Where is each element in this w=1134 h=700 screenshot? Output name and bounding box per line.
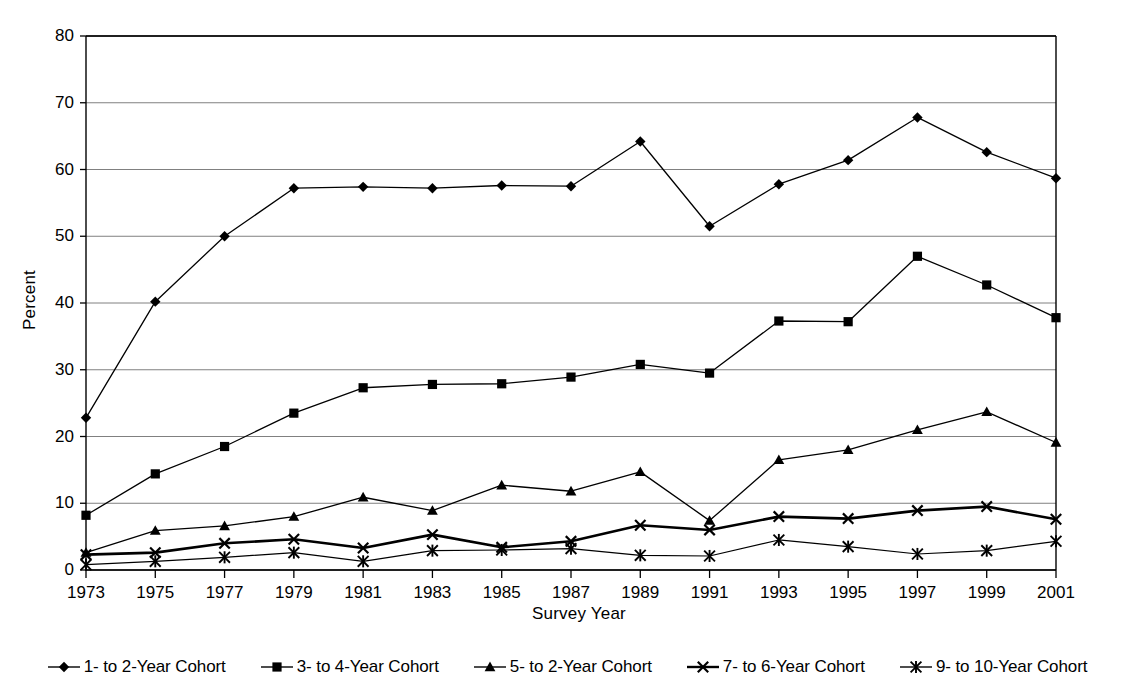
y-tick-label-80: 80 [28,27,74,44]
x-tick-label-1973: 1973 [51,584,121,601]
y-tick-label-0: 0 [28,561,74,578]
data-point-5-to-2-year-cohort-2001 [1051,437,1062,447]
x-tick-label-1999: 1999 [952,584,1022,601]
data-point-3-to-4-year-cohort-1981 [359,383,368,392]
x-tick-label-1995: 1995 [813,584,883,601]
legend-marker-asterisk-icon [899,658,933,676]
legend-marker-glyph [272,662,281,671]
legend-label: 9- to 10-Year Cohort [936,657,1087,677]
data-point-5-to-2-year-cohort-1999 [981,406,992,416]
data-point-3-to-4-year-cohort-1973 [81,511,90,520]
x-tick-label-1979: 1979 [259,584,329,601]
x-tick-label-1985: 1985 [467,584,537,601]
data-point-1-to-2-year-cohort-1995 [843,155,853,165]
data-point-5-to-2-year-cohort-1981 [358,492,369,502]
chart-legend: 1- to 2-Year Cohort3- to 4-Year Cohort5-… [0,650,1134,684]
x-axis-ticks [86,570,1056,578]
data-point-3-to-4-year-cohort-1997 [913,252,922,261]
legend-label: 1- to 2-Year Cohort [84,657,226,677]
data-point-3-to-4-year-cohort-1987 [566,372,575,381]
x-axis-title: Survey Year [0,604,1134,624]
x-tick-label-1975: 1975 [120,584,190,601]
series-3-to-4-year-cohort [81,252,1060,520]
data-point-3-to-4-year-cohort-1991 [705,368,714,377]
x-tick-label-2001: 2001 [1021,584,1091,601]
data-point-1-to-2-year-cohort-1993 [774,179,784,189]
y-tick-label-10: 10 [28,494,74,511]
series-line-3-to-4-year-cohort [86,256,1056,515]
data-point-3-to-4-year-cohort-1995 [844,317,853,326]
x-tick-label-1993: 1993 [744,584,814,601]
x-tick-label-1991: 1991 [675,584,745,601]
x-axis-title-text: Survey Year [532,604,626,624]
x-tick-label-1987: 1987 [536,584,606,601]
legend-item-5[interactable]: 9- to 10-Year Cohort [899,657,1087,677]
data-point-1-to-2-year-cohort-1979 [289,183,299,193]
legend-marker-diamond-icon [47,658,81,676]
legend-label: 5- to 2-Year Cohort [510,657,652,677]
series-line-5-to-2-year-cohort [86,412,1056,553]
legend-item-2[interactable]: 3- to 4-Year Cohort [260,657,439,677]
y-tick-label-20: 20 [28,428,74,445]
data-point-5-to-2-year-cohort-1989 [635,466,646,476]
legend-item-4[interactable]: 7- to 6-Year Cohort [686,657,865,677]
data-point-1-to-2-year-cohort-2001 [1051,173,1061,183]
data-point-1-to-2-year-cohort-1983 [427,183,437,193]
data-point-3-to-4-year-cohort-1975 [151,469,160,478]
chart-page: 0102030405060708019731975197719791981198… [0,0,1134,700]
plot-area: 0102030405060708019731975197719791981198… [0,0,1134,600]
data-point-1-to-2-year-cohort-1981 [358,182,368,192]
x-tick-label-1997: 1997 [882,584,952,601]
data-point-5-to-2-year-cohort-1985 [496,480,507,490]
data-point-1-to-2-year-cohort-1973 [81,413,91,423]
data-point-3-to-4-year-cohort-1979 [289,409,298,418]
legend-marker-triangle-icon [473,658,507,676]
legend-label: 3- to 4-Year Cohort [297,657,439,677]
legend-marker-x-icon [686,658,720,676]
data-point-1-to-2-year-cohort-1985 [497,180,507,190]
x-tick-label-1989: 1989 [605,584,675,601]
data-point-1-to-2-year-cohort-1987 [566,181,576,191]
y-tick-label-60: 60 [28,161,74,178]
legend-label: 7- to 6-Year Cohort [723,657,865,677]
line-chart-svg [0,0,1134,600]
x-tick-label-1977: 1977 [190,584,260,601]
legend-item-3[interactable]: 5- to 2-Year Cohort [473,657,652,677]
legend-item-1[interactable]: 1- to 2-Year Cohort [47,657,226,677]
data-point-1-to-2-year-cohort-1997 [912,112,922,122]
legend-marker-glyph [58,662,68,672]
data-point-3-to-4-year-cohort-1983 [428,380,437,389]
x-tick-label-1983: 1983 [397,584,467,601]
y-axis-ticks [80,36,86,570]
series-5-to-2-year-cohort [81,406,1062,556]
x-tick-label-1981: 1981 [328,584,398,601]
data-point-3-to-4-year-cohort-1993 [774,316,783,325]
data-point-3-to-4-year-cohort-1999 [982,280,991,289]
y-tick-label-70: 70 [28,94,74,111]
y-axis-title: Percent [20,230,40,370]
data-point-3-to-4-year-cohort-1989 [636,360,645,369]
data-point-3-to-4-year-cohort-1977 [220,442,229,451]
data-point-3-to-4-year-cohort-1985 [497,379,506,388]
data-point-3-to-4-year-cohort-2001 [1051,313,1060,322]
data-point-1-to-2-year-cohort-1999 [982,147,992,157]
legend-marker-square-icon [260,658,294,676]
